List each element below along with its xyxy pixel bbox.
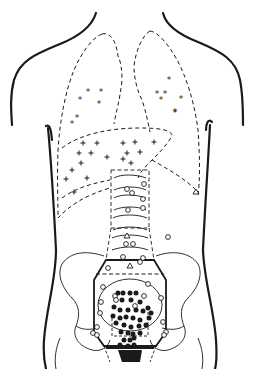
plus-marker [133,140,138,145]
filled-circle-marker [128,291,133,296]
filled-circle-marker [126,331,131,336]
plus-marker [138,150,143,155]
filled-circle-marker [118,343,123,348]
asterisk-marker: * [86,87,91,97]
asterisk-marker: * [163,89,168,99]
plus-marker [70,168,75,173]
open-circle-marker [141,206,146,211]
asterisk-marker: * [75,113,80,123]
filled-circle-marker [111,314,116,319]
stomach-line [152,160,196,190]
open-circle-marker [138,260,143,265]
filled-circle-marker [120,298,125,303]
filled-circle-marker [119,330,124,335]
right-flank-outline [203,125,216,369]
open-circle-marker [95,325,100,330]
plus-marker [121,141,126,146]
open-circle-marker [162,333,167,338]
asterisk-marker: * [99,87,104,97]
open-circle-marker [142,294,147,299]
open-circle-marker [130,191,135,196]
lung-asterisk-markers: ************* [70,75,184,129]
open-circle-marker [101,285,106,290]
open-circle-marker [166,235,171,240]
perineal-mass [118,350,142,362]
asterisk-marker: * [179,94,184,104]
open-circle-marker [98,311,103,316]
open-circle-marker [99,300,104,305]
filled-circle-marker [137,324,142,329]
filled-circle-marker [126,344,131,349]
plus-marker [95,141,100,146]
filled-circle-marker [132,343,137,348]
asterisk-marker: * [167,75,172,85]
open-circle-marker [124,242,129,247]
triangle-marker [127,263,133,268]
open-circle-marker [141,197,146,202]
left-shoulder-outline [11,13,96,125]
left-iliac-wing [60,253,104,330]
torso-distribution-diagram: ************* [0,0,253,369]
left-lung-outline [58,34,122,218]
plus-marker [64,177,69,182]
left-flank-outline [44,128,56,369]
filled-circle-marker [122,323,127,328]
liver-lower-edge [62,180,110,198]
plus-marker [121,157,126,162]
triangle-markers [124,189,199,268]
filled-circle-marker [122,338,127,343]
right-femur [198,338,203,369]
left-femur [55,338,60,369]
open-circle-marker [131,242,136,247]
plus-marker [89,151,94,156]
filled-circle-marker [129,298,134,303]
plus-marker [129,161,134,166]
filled-circle-marker [126,308,131,313]
perineal-cluster [118,350,142,362]
asterisk-marker: * [70,119,75,129]
asterisk-marker: * [173,108,178,118]
filled-circle-marker [114,321,119,326]
asterisk-marker: * [159,95,164,105]
open-circle-marker [142,182,147,187]
filled-circle-marker [131,316,136,321]
filled-circle-marker [146,306,151,311]
filled-circle-marker [132,336,137,341]
vertebra-1 [114,175,146,190]
spine-lower-funnel [106,228,154,260]
filled-circle-marker [147,316,152,321]
asterisk-marker: * [97,99,102,109]
open-circle-marker [95,333,100,338]
filled-circle-marker [149,311,154,316]
asterisk-marker: * [78,95,83,105]
filled-circle-marker [118,308,123,313]
filled-circle-marker [116,291,121,296]
filled-circle-marker [121,291,126,296]
open-circle-marker [106,266,111,271]
open-circle-marker [126,208,131,213]
filled-circle-marker [134,308,139,313]
open-circle-marker [159,296,164,301]
filled-circle-marker [138,318,143,323]
plus-marker [105,155,110,160]
pelvic-inlet [98,279,162,331]
open-circle-marker [125,187,130,192]
right-iliac-wing [156,253,200,330]
open-circle-marker [114,298,119,303]
plus-marker [81,141,86,146]
plus-marker [125,151,130,156]
filled-circle-marker [144,323,149,328]
filled-circle-marker [134,291,139,296]
plus-marker [152,140,157,145]
filled-circle-marker [112,305,117,310]
filled-circle-marker [138,300,143,305]
plus-marker [77,151,82,156]
filled-circle-marker [138,331,143,336]
plus-marker [79,161,84,166]
filled-circle-marker [141,309,146,314]
filled-circle-marker [118,316,123,321]
plus-marker [85,176,90,181]
filled-circle-marker [124,315,129,320]
filled-circle-marker [129,325,134,330]
open-circle-marker [161,320,166,325]
